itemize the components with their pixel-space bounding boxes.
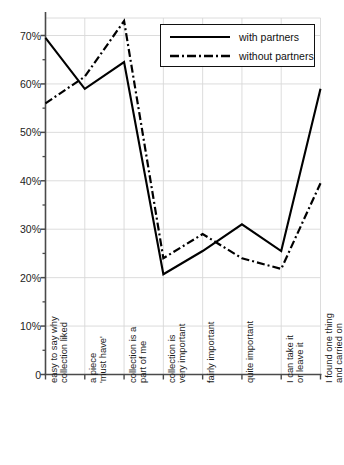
legend-entry-with-partners: with partners [161,27,314,47]
legend-swatch-dashdot [169,49,231,63]
x-axis-category-label-line1: fairly important [205,321,216,382]
x-axis-category-label-line2: part of me [137,326,147,382]
legend: with partners without partners [160,24,315,67]
x-axis-category-label-line2: or leave it [294,335,304,383]
legend-entry-without-partners: without partners [161,46,314,66]
x-axis-category-label-5: fairly important [206,321,216,382]
x-axis-category-label-line2: collection liked [59,316,69,383]
legend-label-without-partners: without partners [239,50,314,62]
legend-swatch-solid [169,30,231,44]
x-axis-category-label-2: a piece'must have' [88,336,107,383]
x-axis-category-label-line1: collection is a [127,326,138,382]
x-axis-category-label-6: quite important [245,320,255,382]
x-axis-category-label-line1: quite important [244,320,255,382]
x-axis-category-label-1: easy to say whycollection liked [49,316,68,383]
x-axis-category-label-8: I found one thingand carried on [324,313,343,383]
x-axis-category-label-7: I can take itor leave it [285,335,304,383]
legend-label-with-partners: with partners [239,31,299,43]
x-axis-category-label-3: collection is apart of me [128,326,147,382]
x-axis-category-label-line2: 'must have' [98,336,108,383]
x-axis-category-label-line2: very important [176,323,186,382]
x-axis-category-label-line2: and carried on [334,313,344,383]
x-axis-category-label-4: collection isvery important [167,323,186,382]
